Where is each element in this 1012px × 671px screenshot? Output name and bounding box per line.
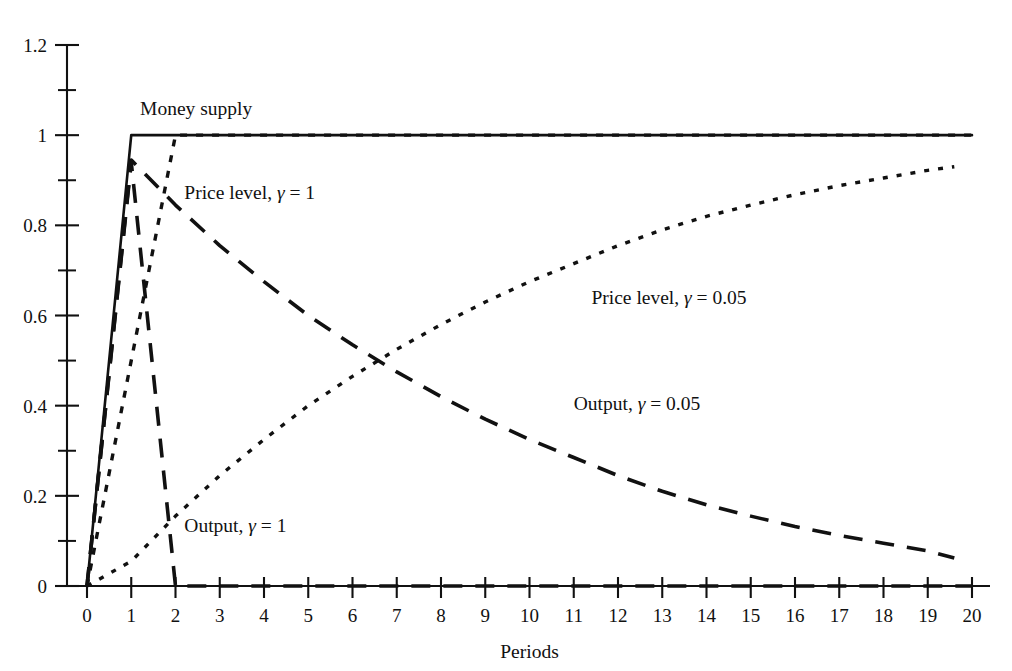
series-label-prefix: Output, xyxy=(574,393,638,414)
x-tick-label: 1 xyxy=(127,606,137,625)
series-label-suffix: = 0.05 xyxy=(692,287,747,308)
series-label-0: Money supply xyxy=(140,99,252,119)
series-label-prefix: Price level, xyxy=(184,182,277,203)
series-label-2: Output, γ = 1 xyxy=(184,516,286,536)
y-tick-label: 1 xyxy=(38,126,48,145)
series-label-suffix: = 1 xyxy=(285,182,316,203)
series-label-3: Price level, γ = 0.05 xyxy=(591,288,746,308)
y-tick-label: 0 xyxy=(38,577,48,596)
series-label-suffix: = 1 xyxy=(256,515,287,536)
x-axis-title: Periods xyxy=(500,641,559,663)
x-tick-label: 13 xyxy=(653,606,672,625)
x-tick-label: 6 xyxy=(348,606,358,625)
x-tick-label: 2 xyxy=(171,606,181,625)
series-label-suffix: = 0.05 xyxy=(645,393,700,414)
x-tick-label: 15 xyxy=(741,606,760,625)
x-tick-label: 8 xyxy=(436,606,446,625)
x-tick-label: 0 xyxy=(82,606,92,625)
x-tick-label: 5 xyxy=(304,606,314,625)
gamma-symbol: γ xyxy=(248,515,256,536)
series-label-prefix: Price level, xyxy=(591,287,684,308)
chart-figure: 00.20.40.60.811.2 0123456789101112131415… xyxy=(0,0,1012,671)
x-tick-label: 17 xyxy=(830,606,849,625)
y-tick-label: 0.8 xyxy=(23,216,47,235)
series-label-4: Output, γ = 0.05 xyxy=(574,394,700,414)
y-tick-label: 1.2 xyxy=(23,36,47,55)
x-tick-label: 20 xyxy=(963,606,982,625)
x-tick-label: 4 xyxy=(259,606,269,625)
series-label-1: Price level, γ = 1 xyxy=(184,183,315,203)
series-label-prefix: Output, xyxy=(184,515,248,536)
x-tick-label: 7 xyxy=(392,606,402,625)
x-tick-label: 10 xyxy=(520,606,539,625)
y-tick-label: 0.2 xyxy=(23,486,47,505)
y-tick-label: 0.6 xyxy=(23,306,47,325)
x-tick-label: 12 xyxy=(609,606,628,625)
x-tick-label: 16 xyxy=(786,606,805,625)
x-tick-label: 18 xyxy=(874,606,893,625)
x-tick-label: 14 xyxy=(697,606,716,625)
x-tick-label: 11 xyxy=(565,606,583,625)
gamma-symbol: γ xyxy=(277,182,285,203)
y-tick-label: 0.4 xyxy=(23,396,47,415)
x-tick-label: 3 xyxy=(215,606,225,625)
x-tick-label: 19 xyxy=(918,606,937,625)
gamma-symbol: γ xyxy=(684,287,692,308)
x-tick-label: 9 xyxy=(481,606,491,625)
